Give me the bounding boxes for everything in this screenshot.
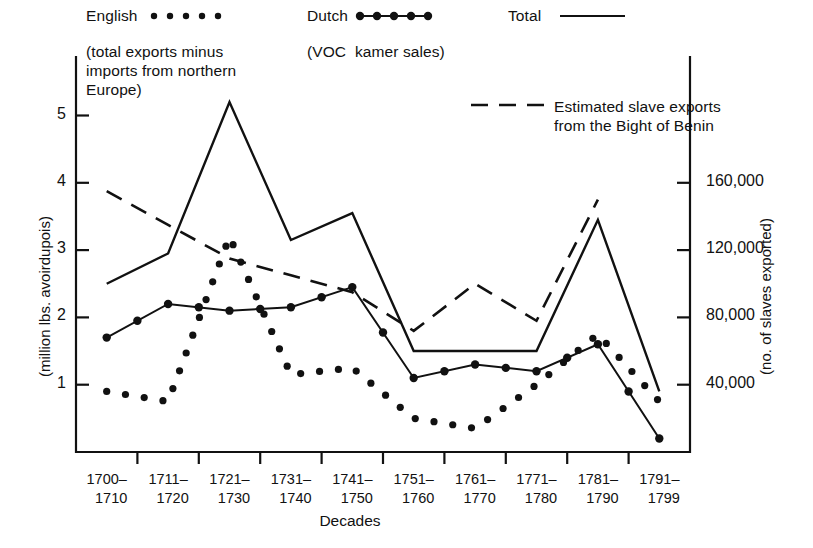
series-dutch [103, 283, 664, 443]
plot-area [0, 0, 813, 548]
axis-ticks [76, 116, 690, 465]
legend-glyphs [151, 12, 625, 105]
chart-figure: English (total exports minus imports fro… [0, 0, 813, 548]
